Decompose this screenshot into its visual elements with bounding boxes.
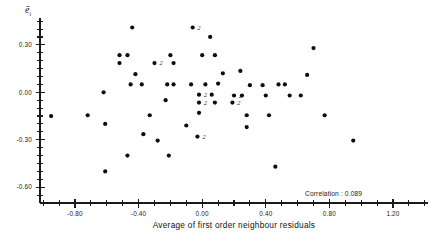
data-point <box>129 82 133 86</box>
data-point <box>49 114 53 118</box>
scatter-plot-figure: 0.300.00-0.30-0.60 -0.80-0.400.000.400.8… <box>0 0 431 243</box>
data-point <box>171 61 175 65</box>
x-tick-label: 1.20 <box>386 210 399 217</box>
data-point <box>130 25 134 29</box>
y-axis-label: ẽi <box>25 4 31 17</box>
data-point <box>125 153 129 157</box>
x-tick-label: -0.80 <box>67 210 83 217</box>
data-point <box>208 35 212 39</box>
data-point <box>232 93 236 97</box>
overlap-count-label: 2 <box>202 133 205 140</box>
data-point <box>102 90 106 94</box>
data-point <box>189 82 193 86</box>
overlap-count-labels: 2222222 <box>159 24 242 140</box>
data-point <box>305 73 309 77</box>
y-tick-label: -0.30 <box>16 136 32 143</box>
x-tick-label: 0.40 <box>259 210 272 217</box>
data-point <box>191 25 195 29</box>
x-axis-title: Average of first order neighbour residua… <box>153 220 316 230</box>
data-point <box>264 93 268 97</box>
y-tick-label: 0.30 <box>19 41 32 48</box>
data-point <box>203 82 207 86</box>
data-point <box>245 113 249 117</box>
data-point <box>261 83 265 87</box>
data-point <box>171 82 175 86</box>
data-point <box>351 138 355 142</box>
overlap-count-label: 2 <box>204 91 207 98</box>
x-tick-label: 0.00 <box>196 210 209 217</box>
data-point <box>216 82 220 86</box>
data-point <box>86 113 90 117</box>
overlap-count-label: 2 <box>237 99 240 106</box>
data-point <box>148 113 152 117</box>
data-point <box>164 98 168 102</box>
data-point <box>200 53 204 57</box>
data-point <box>133 72 137 76</box>
data-point <box>125 53 129 57</box>
data-point <box>103 169 107 173</box>
data-point <box>141 132 145 136</box>
y-tick-label: -0.60 <box>16 183 32 190</box>
data-points-group <box>49 25 355 173</box>
data-point <box>197 100 201 104</box>
data-point <box>273 165 277 169</box>
data-point <box>221 71 225 75</box>
data-point <box>140 82 144 86</box>
y-axis-tick-labels: 0.300.00-0.30-0.60 <box>16 41 32 190</box>
x-axis-tick-labels: -0.80-0.400.000.400.801.20 <box>67 210 400 217</box>
data-point <box>288 93 292 97</box>
data-point <box>210 93 214 97</box>
data-point <box>267 113 271 117</box>
y-tick-label: 0.00 <box>19 89 32 96</box>
overlap-count-label: 2 <box>159 59 162 66</box>
data-point <box>283 82 287 86</box>
data-point <box>299 93 303 97</box>
data-point <box>323 113 327 117</box>
data-point <box>195 134 199 138</box>
data-point <box>213 53 217 57</box>
data-point <box>117 61 121 65</box>
data-point <box>248 83 252 87</box>
data-point <box>213 100 217 104</box>
overlap-count-label: 2 <box>204 99 207 106</box>
data-point <box>311 46 315 50</box>
data-point <box>276 82 280 86</box>
data-point <box>167 153 171 157</box>
data-point <box>197 111 201 115</box>
data-point <box>184 123 188 127</box>
overlap-count-label: 2 <box>198 24 201 31</box>
data-point <box>117 53 121 57</box>
data-point <box>165 82 169 86</box>
plot-canvas: 0.300.00-0.30-0.60 -0.80-0.400.000.400.8… <box>0 0 431 243</box>
correlation-annotation: Correlation : 0.089 <box>305 190 362 197</box>
data-point <box>152 61 156 65</box>
data-point <box>238 69 242 73</box>
data-point <box>230 100 234 104</box>
data-point <box>103 122 107 126</box>
data-point <box>156 138 160 142</box>
data-point <box>197 93 201 97</box>
x-tick-label: -0.40 <box>131 210 147 217</box>
overlap-count-label: 2 <box>239 92 242 99</box>
x-tick-label: 0.80 <box>323 210 336 217</box>
data-point <box>245 125 249 129</box>
axes-group <box>40 18 428 203</box>
data-point <box>168 53 172 57</box>
